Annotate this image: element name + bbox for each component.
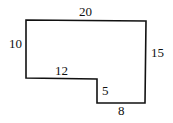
label-bottom: 8 [118,103,125,118]
label-right: 15 [151,45,164,60]
label-top: 20 [79,4,92,19]
label-left: 10 [9,36,22,51]
shape-diagram: 20 10 15 12 5 8 [0,0,173,123]
label-inner-horizontal: 12 [55,63,68,78]
label-inner-vertical: 5 [102,83,109,98]
l-shape-outline [26,20,146,103]
